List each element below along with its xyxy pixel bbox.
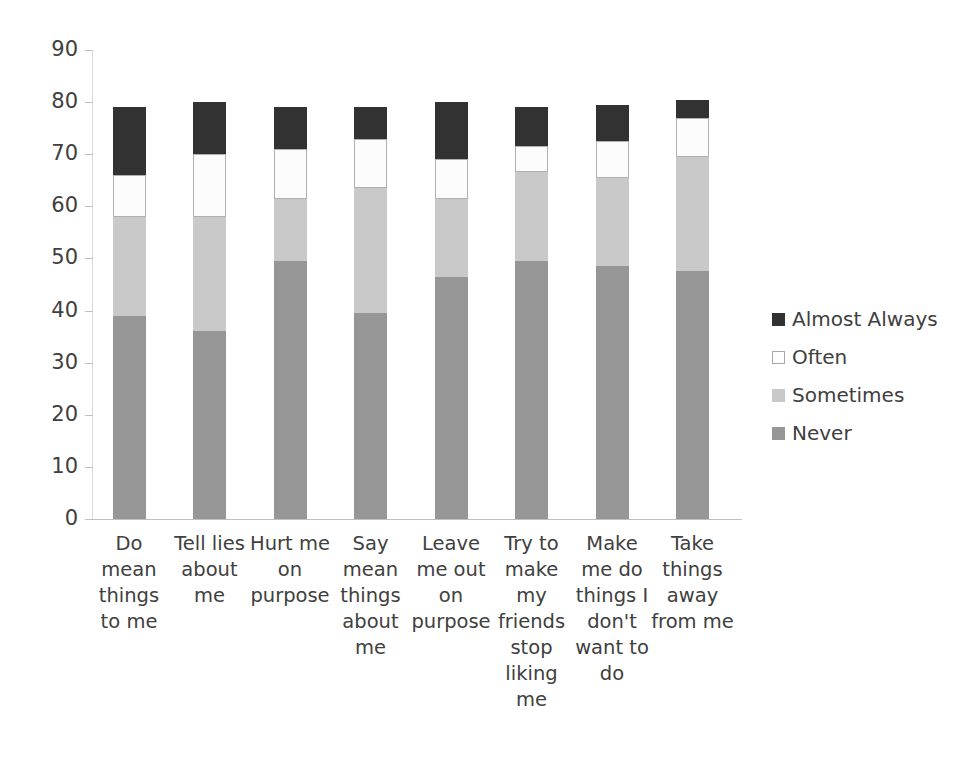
bar-segment-sometimes[interactable] [274,199,307,262]
x-axis-category-label: Leaveme outonpurpose [405,531,497,635]
y-axis-tick-label: 10 [0,456,78,477]
x-axis-label-line: Hurt me [244,531,336,557]
legend-swatch-icon [772,389,785,402]
legend-item[interactable]: Often [772,338,972,376]
y-axis-tick [85,519,93,520]
y-axis-tick-label: 70 [0,143,78,164]
bar-group[interactable] [113,50,146,519]
bar-segment-never[interactable] [435,277,468,519]
x-axis-category-label: Makeme dothings Idon'twant todo [566,531,658,687]
x-axis-label-line: away [647,583,739,609]
x-axis-label-line: Make [566,531,658,557]
x-axis-label-line: Do [83,531,175,557]
x-axis-label-line: Say [325,531,417,557]
bar-segment-often[interactable] [113,175,146,217]
bar-segment-almost-always[interactable] [274,107,307,149]
bar-segment-never[interactable] [354,313,387,519]
bar-segment-never[interactable] [515,261,548,519]
bar-segment-never[interactable] [274,261,307,519]
y-axis-tick-label: 20 [0,404,78,425]
x-axis-line [92,519,742,520]
x-axis-label-line: mean [83,557,175,583]
bar-group[interactable] [596,50,629,519]
bar-segment-almost-always[interactable] [193,102,226,154]
y-axis-tick-label: 90 [0,39,78,60]
y-axis-tick-label: 30 [0,352,78,373]
legend-item-label: Almost Always [792,309,938,329]
x-axis-label-line: Take [647,531,739,557]
stacked-bar-chart: 0102030405060708090 Domeanthingsto meTel… [0,0,978,760]
legend-item[interactable]: Sometimes [772,376,972,414]
y-axis-tick-label: 60 [0,195,78,216]
bar-group[interactable] [435,50,468,519]
x-axis-label-line: my [486,583,578,609]
x-axis-label-line: Try to [486,531,578,557]
x-axis-label-line: me [325,635,417,661]
bar-segment-often[interactable] [274,149,307,199]
y-axis-tick-label: 0 [0,508,78,529]
bar-segment-sometimes[interactable] [435,199,468,277]
y-axis-tick-label-wrap: 60 [0,195,78,216]
y-axis-tick-label: 80 [0,91,78,112]
bar-segment-sometimes[interactable] [596,178,629,267]
bar-segment-sometimes[interactable] [193,217,226,332]
x-axis-label-line: want to [566,635,658,661]
x-axis-label-line: to me [83,609,175,635]
y-axis-tick-label-wrap: 40 [0,300,78,321]
legend-item[interactable]: Never [772,414,972,452]
x-axis-label-line: stop [486,635,578,661]
bar-segment-often[interactable] [596,141,629,177]
legend-item-label: Sometimes [792,385,904,405]
bar-segment-almost-always[interactable] [515,107,548,146]
x-axis-label-line: liking [486,661,578,687]
bar-segment-never[interactable] [596,266,629,519]
chart-legend: Almost AlwaysOftenSometimesNever [772,300,972,452]
bar-segment-almost-always[interactable] [113,107,146,175]
legend-item-label: Often [792,347,847,367]
x-axis-label-line: friends [486,609,578,635]
x-axis-label-line: Leave [405,531,497,557]
bar-segment-almost-always[interactable] [435,102,468,159]
bar-segment-sometimes[interactable] [676,157,709,272]
x-axis-label-line: from me [647,609,739,635]
y-axis-tick-label-wrap: 30 [0,352,78,373]
y-axis-tick-label-wrap: 0 [0,508,78,529]
bar-segment-never[interactable] [113,316,146,519]
legend-item[interactable]: Almost Always [772,300,972,338]
x-axis-category-label: Tell liesaboutme [164,531,256,609]
bar-group[interactable] [193,50,226,519]
bar-group[interactable] [354,50,387,519]
x-axis-label-line: about [164,557,256,583]
bar-group[interactable] [274,50,307,519]
bar-segment-often[interactable] [193,154,226,217]
bar-segment-almost-always[interactable] [676,100,709,118]
bar-segment-often[interactable] [515,146,548,172]
bar-segment-never[interactable] [193,331,226,519]
legend-item-label: Never [792,423,852,443]
x-axis-label-line: Tell lies [164,531,256,557]
bar-segment-sometimes[interactable] [354,188,387,313]
bar-segment-often[interactable] [676,118,709,157]
y-axis-tick-label-wrap: 80 [0,91,78,112]
bar-segment-never[interactable] [676,271,709,519]
bar-segment-sometimes[interactable] [515,172,548,261]
bar-segment-sometimes[interactable] [113,217,146,316]
bar-group[interactable] [515,50,548,519]
x-axis-label-line: things [647,557,739,583]
bar-segment-almost-always[interactable] [596,105,629,141]
bar-segment-almost-always[interactable] [354,107,387,138]
bar-segment-often[interactable] [354,139,387,189]
x-axis-category-label: Domeanthingsto me [83,531,175,635]
x-axis-label-line: do [566,661,658,687]
legend-swatch-icon [772,427,785,440]
x-axis-label-line: purpose [405,609,497,635]
y-axis-tick-label-wrap: 10 [0,456,78,477]
y-axis-tick-label-wrap: 90 [0,39,78,60]
x-axis-category-label: Takethingsawayfrom me [647,531,739,635]
y-axis-tick-label: 40 [0,300,78,321]
x-axis-label-line: me out [405,557,497,583]
bar-segment-often[interactable] [435,159,468,198]
legend-swatch-icon [772,313,785,326]
x-axis-label-line: me do [566,557,658,583]
bar-group[interactable] [676,50,709,519]
